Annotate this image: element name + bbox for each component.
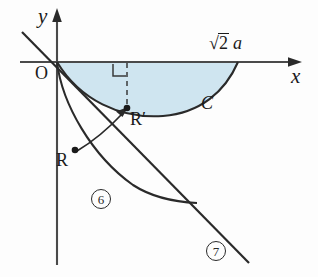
x-intercept-variable: a <box>233 33 242 53</box>
x-axis-label: x <box>291 66 300 87</box>
x-intercept-label: √2a <box>209 33 242 52</box>
point-r-dot <box>72 147 79 154</box>
math-diagram-svg <box>0 0 318 277</box>
y-axis-label: y <box>38 6 47 27</box>
figure-canvas: y x O √2a C R′ R 6 7 <box>0 0 318 277</box>
point-r-label: R <box>56 151 68 169</box>
origin-label: O <box>35 64 48 82</box>
callout-7: 7 <box>206 241 226 261</box>
radicand-value: 2 <box>218 33 229 52</box>
callout-6: 6 <box>91 189 111 209</box>
point-r-prime-label: R′ <box>130 110 146 128</box>
y-axis-arrowhead <box>52 8 62 22</box>
radical-group: √2 <box>209 33 229 52</box>
curve-c-label: C <box>201 94 213 112</box>
